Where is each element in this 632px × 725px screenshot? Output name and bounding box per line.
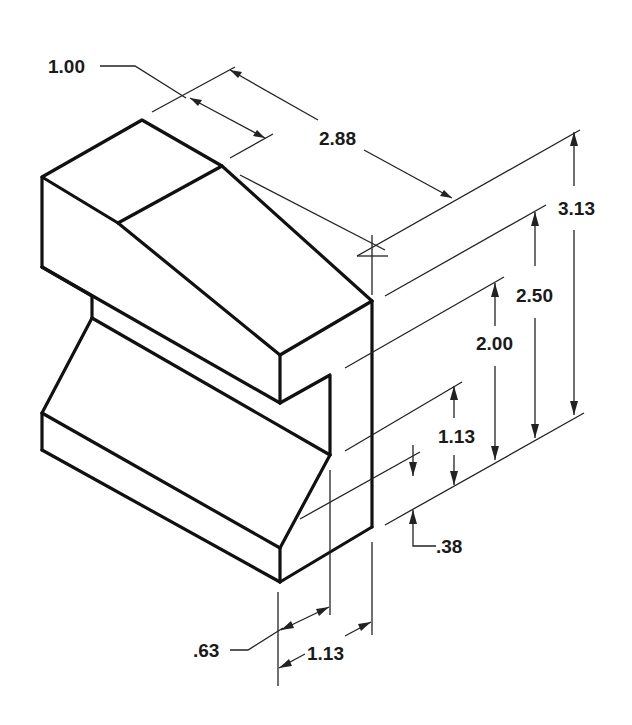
dim-label-2-88: 2.88 bbox=[319, 128, 356, 149]
dim-label-1-13-bottom: 1.13 bbox=[307, 643, 344, 664]
dim-label-1-13-vertical: 1.13 bbox=[438, 426, 475, 447]
dim-label-0-63: .63 bbox=[193, 640, 219, 661]
dim-label-2-00: 2.00 bbox=[476, 333, 513, 354]
dim-label-0-38: .38 bbox=[436, 536, 462, 557]
dimension-labels: 1.00 2.88 3.13 2.50 2.00 1.13 .38 .63 1.… bbox=[48, 56, 595, 664]
isometric-drawing: 1.00 2.88 3.13 2.50 2.00 1.13 .38 .63 1.… bbox=[0, 0, 632, 725]
object-outline bbox=[42, 120, 372, 582]
dim-label-3-13: 3.13 bbox=[558, 198, 595, 219]
dim-label-1-00: 1.00 bbox=[48, 56, 85, 77]
dim-label-2-50: 2.50 bbox=[516, 285, 553, 306]
dimension-lines bbox=[100, 66, 584, 686]
